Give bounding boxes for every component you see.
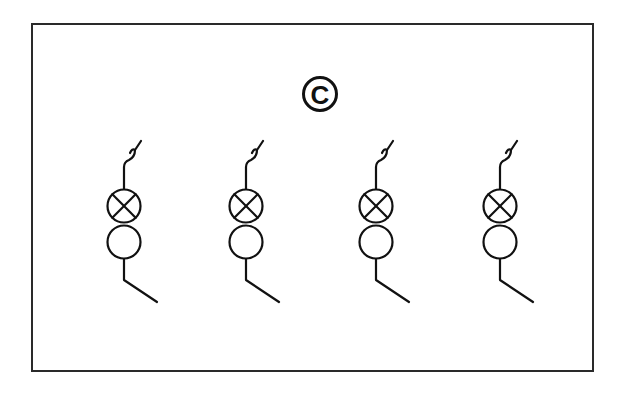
- lamp-circuit-symbol-1: [108, 141, 158, 302]
- lamp-circuit-symbol-4: [484, 141, 534, 302]
- lead-line: [500, 259, 533, 302]
- circle-element: [108, 226, 141, 259]
- circle-element: [230, 226, 263, 259]
- switch-contact-icon: [124, 141, 141, 189]
- lead-line: [246, 259, 279, 302]
- lead-line: [124, 259, 157, 302]
- switch-contact-icon: [376, 141, 393, 189]
- switch-contact-icon: [246, 141, 263, 189]
- switch-contact-icon: [500, 141, 517, 189]
- circle-element: [484, 226, 517, 259]
- lamp-circuit-symbol-2: [230, 141, 280, 302]
- lamp-circuit-symbol-3: [360, 141, 410, 302]
- lead-line: [376, 259, 409, 302]
- circle-element: [360, 226, 393, 259]
- circuit-canvas: [0, 0, 623, 395]
